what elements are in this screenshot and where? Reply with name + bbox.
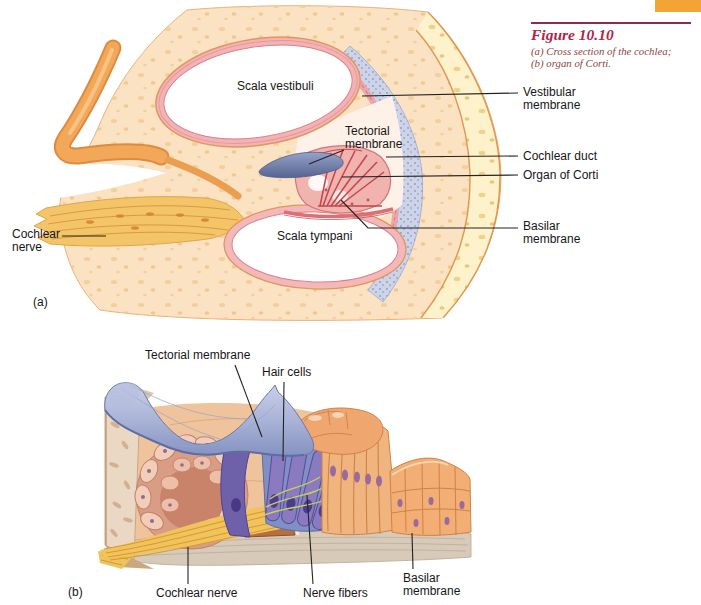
- figure-caption-a: (a) Cross section of the cochlea;: [531, 45, 671, 57]
- cochlea-cross-section-illustration: [0, 0, 520, 335]
- panel-b-letter: (b): [68, 586, 83, 599]
- label-tectorial-membrane-a: Tectorial membrane: [345, 125, 411, 152]
- label-scala-tympani: Scala tympani: [277, 230, 352, 243]
- figure-caption-b: (b) organ of Corti.: [531, 57, 611, 69]
- page-corner-tab: [655, 0, 701, 12]
- label-basilar-membrane-a: Basilar membrane: [523, 220, 599, 247]
- panel-a-letter: (a): [33, 296, 48, 309]
- label-tectorial-membrane-b: Tectorial membrane: [145, 349, 250, 362]
- label-cochlear-duct: Cochlear duct: [523, 150, 597, 163]
- label-organ-of-corti: Organ of Corti: [523, 169, 598, 182]
- label-hair-cells: Hair cells: [262, 366, 311, 379]
- label-nerve-fibers: Nerve fibers: [303, 587, 368, 600]
- figure-rule: [531, 22, 691, 24]
- label-basilar-membrane-b: Basilar membrane: [403, 572, 473, 599]
- label-cochlear-nerve-b: Cochlear nerve: [156, 587, 237, 600]
- organ-of-corti-illustration: [70, 355, 630, 605]
- figure-title: Figure 10.10: [531, 26, 614, 44]
- textbook-page: { "figure": { "title": "Figure 10.10", "…: [0, 0, 701, 605]
- label-cochlear-nerve-a: Cochlear nerve: [12, 228, 68, 255]
- label-scala-vestibuli: Scala vestibuli: [237, 80, 314, 93]
- label-vestibular-membrane: Vestibular membrane: [523, 86, 599, 113]
